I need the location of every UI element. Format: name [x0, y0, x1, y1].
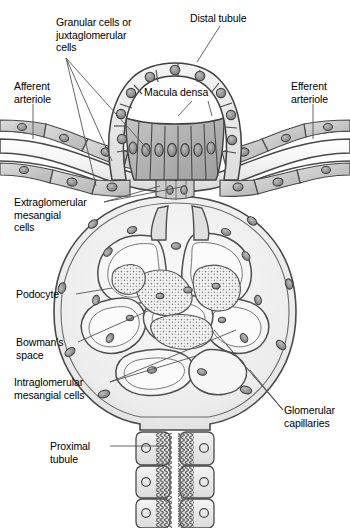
label-extraglomerular-mesangial-cells: Extraglomerular mesangial cells [14, 196, 87, 234]
macula-densa [126, 118, 224, 180]
label-podocyte: Podocyte [16, 288, 59, 301]
label-afferent-arteriole: Afferent arteriole [14, 80, 51, 105]
label-granular-cells: Granular cells or juxtaglomerular cells [56, 16, 131, 54]
label-distal-tubule: Distal tubule [190, 12, 246, 25]
figure-canvas: Granular cells or juxtaglomerular cells … [0, 0, 350, 528]
label-proximal-tubule: Proximal tubule [50, 440, 90, 465]
label-bowmans-space: Bowman's space [16, 336, 63, 361]
label-efferent-arteriole: Efferent arteriole [291, 80, 328, 105]
label-glomerular-capillaries: Glomerular capillaries [284, 404, 335, 429]
label-macula-densa: Macula densa [144, 86, 208, 99]
label-intraglomerular-mesangial-cells: Intraglomerular mesangial cells [14, 376, 84, 401]
